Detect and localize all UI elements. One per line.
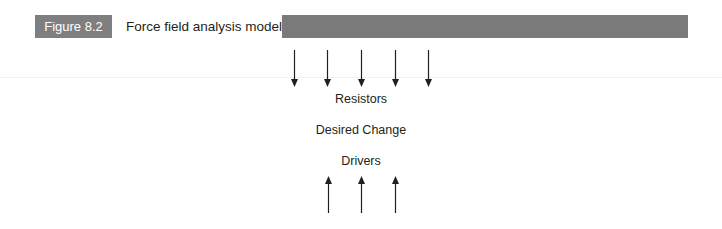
arrow-down-icon <box>290 50 299 87</box>
arrow-down-icon <box>424 50 433 87</box>
drivers-label: Drivers <box>341 154 381 168</box>
arrow-down-icon <box>391 50 400 87</box>
arrow-up-icon <box>391 176 400 213</box>
resistors-label: Resistors <box>335 92 387 106</box>
arrow-down-icon <box>357 50 366 87</box>
arrow-down-icon <box>323 50 332 87</box>
figure-title: Force field analysis model <box>126 15 282 38</box>
figure-number-badge: Figure 8.2 <box>35 15 112 38</box>
arrow-up-icon <box>357 176 366 213</box>
arrow-up-icon <box>324 176 333 213</box>
desired-change-label: Desired Change <box>316 123 406 137</box>
resistance-bar <box>282 15 688 38</box>
